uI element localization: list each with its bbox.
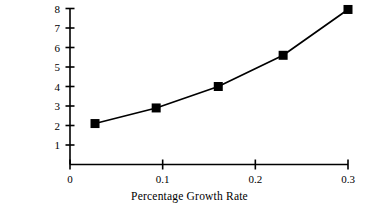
y-tick-label: 8 <box>40 3 60 14</box>
data-line <box>95 9 348 123</box>
axes-group <box>70 8 348 165</box>
x-tick-label: 0.2 <box>248 174 262 185</box>
x-tick-label: 0 <box>67 174 73 185</box>
y-tick-label: 7 <box>40 23 60 34</box>
data-point-marker <box>279 51 288 60</box>
y-tick-label: 3 <box>40 101 60 112</box>
y-tick-label: 4 <box>40 81 60 92</box>
y-tick-label: 6 <box>40 42 60 53</box>
y-tick-label: 5 <box>40 62 60 73</box>
data-point-marker <box>91 119 100 128</box>
y-tick-label: 1 <box>40 140 60 151</box>
data-point-marker <box>344 5 353 14</box>
data-markers <box>91 5 353 128</box>
data-point-marker <box>152 103 161 112</box>
line-chart: 12345678 00.10.20.3 Ten Year Total (1000… <box>0 0 379 216</box>
x-axis-title: Percentage Growth Rate <box>0 190 379 202</box>
y-tick-label: 2 <box>40 120 60 131</box>
x-tick-label: 0.3 <box>341 174 355 185</box>
data-line-path <box>95 9 348 123</box>
data-point-marker <box>214 82 223 91</box>
x-tick-label: 0.1 <box>156 174 170 185</box>
